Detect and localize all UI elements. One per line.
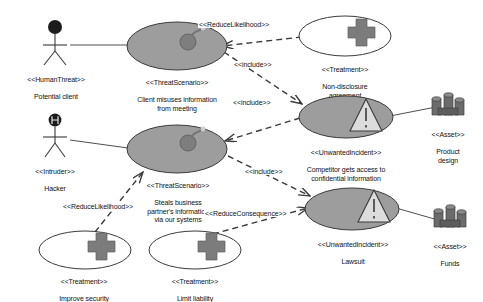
threat-scenario-ellipse: [126, 124, 228, 174]
stick-figure-filled-head-icon: [36, 18, 74, 68]
treatment-improve-security-name: Improve security infrastructure: [28, 295, 140, 302]
threat-scenario-steals-partner-information[interactable]: [126, 124, 228, 178]
stick-figure-hacker-head-icon: [36, 112, 74, 160]
actor-potential-client-name: Potential client: [2, 93, 110, 101]
unwanted-incident-ellipse: [298, 93, 394, 141]
treatment-improve-security-stereotype: <<Treatment>>: [28, 278, 140, 286]
threat-scenario-client-misuses-stereotype: <<ThreatScenario>>: [110, 79, 244, 87]
use-case-diagram-canvas: <<HumanThreat>> Potential client <<Intru…: [0, 0, 483, 302]
unwanted-incident-lawsuit-name: Lawsuit: [292, 258, 414, 266]
asset-funds[interactable]: [430, 203, 470, 239]
asset-funds-stereotype: <<Asset>>: [416, 243, 483, 251]
actor-hacker-name: Hacker: [8, 185, 102, 193]
treatment-improve-security-infrastructure[interactable]: [38, 225, 132, 275]
actor-hacker[interactable]: [36, 112, 74, 164]
unwanted-incident-lawsuit-stereotype: <<UnwantedIncident>>: [292, 241, 414, 249]
edge-include-middle: [225, 118, 300, 141]
threat-scenario-steals-partner-stereotype: <<ThreatScenario>>: [122, 182, 234, 190]
unwanted-incident-ellipse: [304, 185, 400, 233]
asset-product-design[interactable]: [428, 91, 468, 127]
treatment-limit-liability-name: Limit liability: [144, 295, 246, 302]
asset-product-design-stereotype: <<Asset>>: [414, 131, 482, 139]
unwanted-incident-lawsuit[interactable]: [304, 185, 400, 237]
asset-product-design-name: Product design: [414, 148, 482, 165]
unwanted-incident-competitor-name: Competitor gets access to confidential i…: [278, 166, 414, 183]
threat-scenario-client-misuses-name: Client misuses information from meeting: [110, 96, 244, 113]
asset-funds-name: Funds: [416, 260, 483, 268]
edge-label-include-bottom: <<include>>: [244, 168, 283, 175]
edge-hacker-to-threat: [70, 140, 128, 148]
treatment-improve-security-label: <<Treatment>> Improve security infrastru…: [28, 270, 140, 302]
actor-hacker-label: <<Intruder>> Hacker: [8, 160, 102, 202]
actor-potential-client-label: <<HumanThreat>> Potential client: [2, 68, 110, 110]
treatment-limit-liability-label: <<Treatment>> Limit liability: [144, 270, 246, 302]
edge-label-reduce-consequence: <<ReduceConsequence>>: [204, 210, 288, 217]
unwanted-incident-competitor-gets-access[interactable]: [298, 93, 394, 145]
asset-funds-label: <<Asset>> Funds: [416, 235, 483, 277]
asset-stack-icon: [430, 203, 470, 235]
treatment-nda-stereotype: <<Treatment>>: [292, 66, 398, 74]
unwanted-incident-competitor-label: <<UnwantedIncident>> Competitor gets acc…: [278, 141, 414, 191]
edge-label-include-top: <<include>>: [233, 61, 272, 68]
treatment-ellipse: [38, 225, 132, 271]
threat-scenario-client-misuses-information-label: <<ThreatScenario>> Client misuses inform…: [110, 71, 244, 121]
edge-label-include-middle: <<include>>: [232, 99, 271, 106]
treatment-ellipse: [148, 225, 242, 271]
actor-potential-client-stereotype: <<HumanThreat>>: [2, 76, 110, 84]
asset-product-design-label: <<Asset>> Product design: [414, 123, 482, 173]
actor-potential-client[interactable]: [36, 18, 74, 72]
edge-label-reduce-likelihood-bottom: <<ReduceLikelihood>>: [62, 203, 134, 210]
actor-hacker-stereotype: <<Intruder>>: [8, 168, 102, 176]
edge-label-reduce-likelihood-top: <<ReduceLikelihood>>: [198, 21, 270, 28]
unwanted-incident-lawsuit-label: <<UnwantedIncident>> Lawsuit: [292, 233, 414, 275]
threat-scenario-client-misuses-information[interactable]: [126, 21, 228, 75]
threat-scenario-ellipse: [126, 21, 228, 71]
asset-stack-icon: [428, 91, 468, 123]
treatment-limit-liability-stereotype: <<Treatment>>: [144, 278, 246, 286]
treatment-limit-liability[interactable]: [148, 225, 242, 275]
unwanted-incident-competitor-stereotype: <<UnwantedIncident>>: [278, 149, 414, 157]
treatment-ellipse: [298, 10, 392, 58]
edge-reduce-likelihood-top: [222, 37, 302, 46]
treatment-non-disclosure-agreement[interactable]: [298, 10, 392, 62]
